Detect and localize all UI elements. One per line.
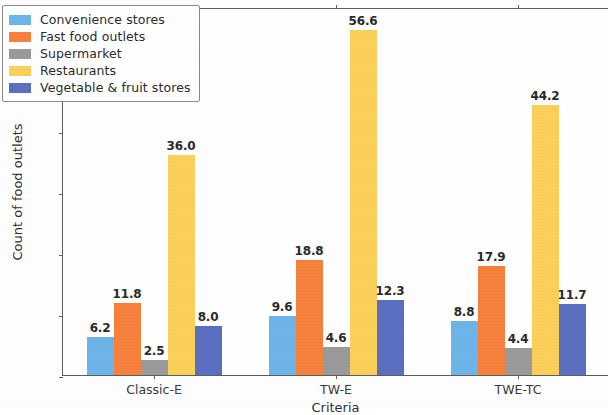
bar: 11.7 [559, 304, 586, 375]
x-axis-tick-mark [518, 5, 519, 9]
x-axis-tick-mark [518, 375, 519, 379]
y-axis-tick-mark [59, 194, 63, 195]
bar: 12.3 [377, 300, 404, 375]
bar: 2.5 [141, 360, 168, 375]
bar: 18.8 [296, 260, 323, 375]
bar: 8.8 [451, 321, 478, 375]
legend-color-swatch [9, 49, 31, 59]
bar: 8.0 [195, 326, 222, 375]
y-axis-tick-mark [59, 133, 63, 134]
legend-item-label: Convenience stores [40, 12, 165, 27]
legend-item: Fast food outlets [9, 28, 191, 45]
bar: 9.6 [269, 316, 296, 375]
x-axis-tick-mark [336, 5, 337, 9]
bar-value-label: 11.8 [113, 287, 142, 301]
legend-color-swatch [9, 15, 31, 25]
legend-item: Supermarket [9, 45, 191, 62]
bar: 17.9 [478, 266, 505, 375]
legend-color-swatch [9, 66, 31, 76]
bar-value-label: 4.6 [326, 331, 347, 345]
y-axis-label: Count of food outlets [10, 123, 25, 260]
bar-value-label: 4.4 [508, 332, 529, 346]
legend-color-swatch [9, 83, 31, 93]
bar-value-label: 8.0 [198, 310, 219, 324]
bar: 44.2 [532, 105, 559, 375]
bar: 56.6 [350, 30, 377, 375]
bar-value-label: 12.3 [376, 284, 405, 298]
legend-item: Vegetable & fruit stores [9, 79, 191, 96]
y-axis-tick-mark [59, 255, 63, 256]
y-axis-tick-mark [59, 316, 63, 317]
legend-item-label: Fast food outlets [40, 29, 145, 44]
bar-value-label: 6.2 [90, 321, 111, 335]
bar-value-label: 8.8 [454, 305, 475, 319]
bar-value-label: 17.9 [477, 250, 506, 264]
chart-legend: Convenience storesFast food outletsSuper… [2, 5, 200, 102]
x-axis-tick-label: Classic-E [126, 382, 182, 397]
bar: 11.8 [114, 303, 141, 375]
bar: 4.6 [323, 347, 350, 375]
bar-value-label: 36.0 [167, 139, 196, 153]
x-axis-tick-label: TW-E [320, 382, 352, 397]
x-axis-tick-label: TWE-TC [495, 382, 542, 397]
bar-value-label: 56.6 [349, 14, 378, 28]
legend-item-label: Supermarket [40, 46, 122, 61]
y-axis-tick-mark [59, 377, 63, 378]
x-axis-tick-mark [154, 375, 155, 379]
legend-item: Convenience stores [9, 11, 191, 28]
bar-value-label: 18.8 [295, 244, 324, 258]
bar-value-label: 9.6 [272, 300, 293, 314]
legend-item-label: Restaurants [40, 63, 116, 78]
bar-value-label: 44.2 [531, 89, 560, 103]
legend-item: Restaurants [9, 62, 191, 79]
bar: 4.4 [505, 348, 532, 375]
bar-value-label: 2.5 [144, 344, 165, 358]
bar: 36.0 [168, 155, 195, 375]
bar: 6.2 [87, 337, 114, 375]
legend-item-label: Vegetable & fruit stores [40, 80, 191, 95]
bar-value-label: 11.7 [558, 288, 587, 302]
x-axis-label: Criteria [311, 400, 359, 415]
legend-color-swatch [9, 32, 31, 42]
x-axis-tick-mark [336, 375, 337, 379]
